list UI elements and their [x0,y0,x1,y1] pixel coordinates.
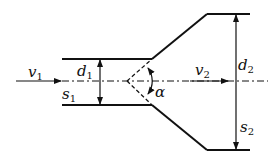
s2-label: s2 [240,118,254,137]
diffuser-bottom-wall [152,105,207,150]
v2-label: v2 [195,61,210,80]
angle-extension-top [127,59,152,81]
d2-label: d2 [238,56,254,75]
v1-label: v1 [28,63,43,82]
d1-label: d1 [77,62,93,81]
alpha-label: α [155,83,165,101]
diffuser-top-wall [152,14,207,59]
pipe-expansion-diagram: v1 d1 s1 α v2 d2 s2 [0,0,278,159]
s1-label: s1 [62,85,76,104]
